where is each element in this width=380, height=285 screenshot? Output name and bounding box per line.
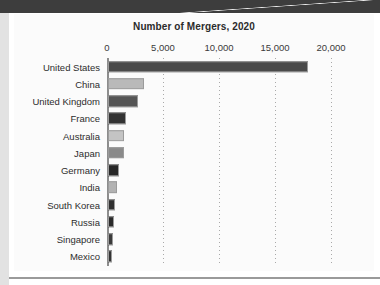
bar-singapore [108, 233, 113, 245]
bar-united-kingdom [108, 95, 138, 107]
bar-japan [108, 147, 124, 159]
x-tick-label-5000: 5,000 [151, 42, 175, 53]
category-label-china: China [75, 78, 100, 89]
chart-card: Number of Mergers, 2020 05,00010,00015,0… [14, 14, 374, 271]
category-label-australia: Australia [63, 130, 100, 141]
x-tick-label-10000: 10,000 [204, 42, 233, 53]
top-decorative-band [0, 0, 380, 13]
x-tick-label-20000: 20,000 [316, 42, 345, 53]
bar-row: India [14, 179, 374, 196]
bar-row: Japan [14, 144, 374, 161]
category-label-germany: Germany [61, 165, 100, 176]
bar-china [108, 78, 144, 90]
x-tick-label-0: 0 [104, 42, 109, 53]
category-label-japan: Japan [74, 147, 100, 158]
bar-row: China [14, 75, 374, 92]
bar-row: United Kingdom [14, 93, 374, 110]
category-label-south-korea: South Korea [47, 199, 100, 210]
band-streak-decoration [150, 0, 380, 13]
bar-row: Australia [14, 127, 374, 144]
category-label-united-kingdom: United Kingdom [32, 96, 100, 107]
bar-germany [108, 164, 119, 176]
bar-south-korea [108, 199, 115, 211]
x-tick-label-15000: 15,000 [260, 42, 289, 53]
chart-title: Number of Mergers, 2020 [14, 21, 374, 32]
bar-row: Russia [14, 213, 374, 230]
page-root: Number of Mergers, 2020 05,00010,00015,0… [0, 0, 380, 285]
bar-australia [108, 130, 124, 142]
bar-russia [108, 216, 114, 228]
bar-row: South Korea [14, 196, 374, 213]
category-label-france: France [70, 113, 100, 124]
bar-united-states [108, 61, 308, 73]
bar-row: Singapore [14, 231, 374, 248]
category-label-india: India [79, 182, 100, 193]
bar-mexico [108, 251, 112, 263]
bar-row: Mexico [14, 248, 374, 265]
category-label-russia: Russia [71, 216, 100, 227]
bar-row: United States [14, 58, 374, 75]
category-label-mexico: Mexico [70, 251, 100, 262]
bar-india [108, 182, 117, 194]
bar-france [108, 113, 126, 125]
bar-rows: United StatesChinaUnited KingdomFranceAu… [14, 58, 374, 266]
left-edge-strip [0, 0, 9, 285]
category-label-united-states: United States [43, 61, 100, 72]
bar-row: France [14, 110, 374, 127]
chart-plot-area: 05,00010,00015,00020,000 United StatesCh… [14, 42, 374, 264]
bar-row: Germany [14, 162, 374, 179]
bottom-rule [9, 277, 380, 279]
category-label-singapore: Singapore [57, 234, 100, 245]
